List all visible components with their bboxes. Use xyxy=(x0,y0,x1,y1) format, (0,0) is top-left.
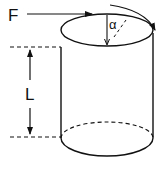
bottom-ellipse-front xyxy=(61,138,153,156)
cylinder-diagram: L F α xyxy=(0,0,160,175)
rotation-arrow xyxy=(110,5,155,30)
length-label: L xyxy=(25,85,34,104)
force-label: F xyxy=(8,6,18,25)
angle-label: α xyxy=(109,17,117,32)
bottom-ellipse-back xyxy=(61,122,153,138)
